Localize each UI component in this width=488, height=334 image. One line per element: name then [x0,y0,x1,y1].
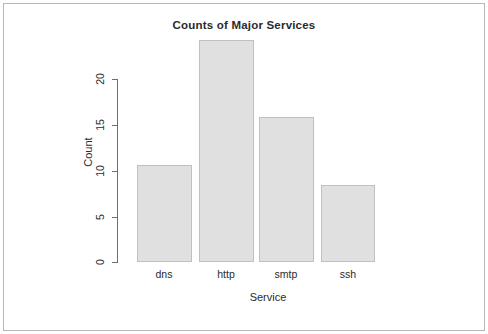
x-axis-tick-label-ssh: ssh [308,268,388,280]
bar-chart-figure: Counts of Major Services 20 15 10 5 0 Co… [0,0,488,334]
y-axis-tick-20 [112,79,117,80]
bar-smtp[interactable] [259,117,314,262]
y-axis-title: Count [82,122,94,182]
bar-ssh[interactable] [321,185,375,262]
y-axis-tick-label-0: 0 [94,242,106,282]
y-axis-tick-label-5: 5 [94,197,106,237]
y-axis-tick-label-10: 10 [94,151,106,191]
x-axis-title: Service [118,291,418,303]
plot-area [118,40,418,262]
y-axis-tick-0 [112,262,117,263]
y-axis-tick-5 [112,217,117,218]
y-axis-tick-15 [112,125,117,126]
bar-dns[interactable] [137,165,192,262]
y-axis-tick-10 [112,171,117,172]
y-axis-tick-label-15: 15 [94,105,106,145]
chart-title: Counts of Major Services [0,19,488,31]
y-axis-tick-label-20: 20 [94,59,106,99]
bar-http[interactable] [199,40,254,262]
